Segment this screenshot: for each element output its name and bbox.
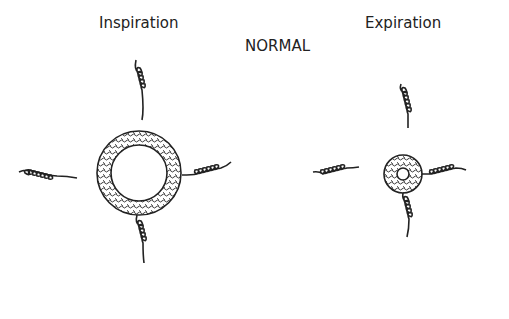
bottom-spring xyxy=(136,215,146,263)
right-spring xyxy=(182,162,231,175)
top-spring xyxy=(400,84,411,128)
expiration-figure xyxy=(313,84,466,237)
airway-lumen xyxy=(111,145,167,201)
airway-diagram xyxy=(0,0,509,319)
bottom-spring xyxy=(403,193,412,237)
airway-lumen xyxy=(397,168,409,180)
right-spring xyxy=(422,165,466,174)
left-spring xyxy=(313,165,359,174)
left-spring xyxy=(19,170,77,179)
top-spring xyxy=(135,60,145,120)
inspiration-figure xyxy=(19,60,231,263)
